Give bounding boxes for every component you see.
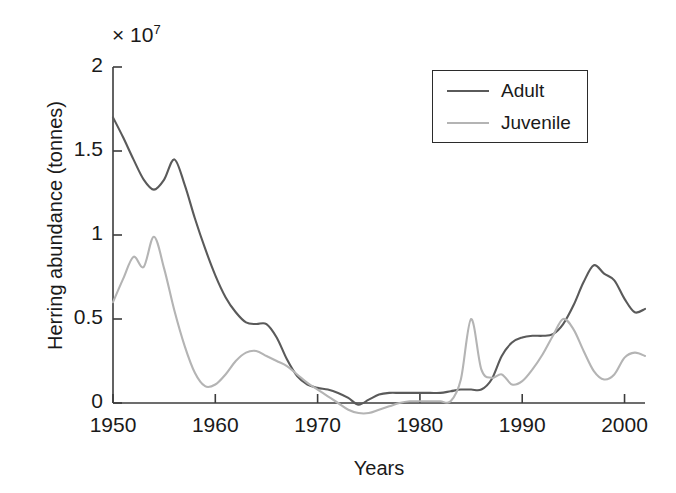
y-tick-label: 0.5	[15, 305, 103, 329]
x-tick-label: 1990	[482, 413, 562, 437]
x-tick-label: 1970	[278, 413, 358, 437]
y-axis-ticks	[113, 67, 122, 403]
legend-swatch-adult	[447, 90, 489, 92]
legend-item-juvenile: Juvenile	[433, 108, 587, 138]
x-tick-label: 1960	[175, 413, 255, 437]
x-axis-title: Years	[113, 457, 645, 480]
y-axis-multiplier-label: × 107	[112, 22, 161, 47]
series-line-adult	[113, 117, 645, 404]
chart-legend: Adult Juvenile	[432, 70, 588, 143]
multiplier-exponent: 7	[153, 22, 160, 37]
herring-abundance-figure: × 107 Herring abundance (tonnes) Years 1…	[0, 0, 676, 493]
x-tick-label: 1950	[73, 413, 153, 437]
y-tick-label: 2	[15, 53, 103, 77]
x-tick-label: 1980	[380, 413, 460, 437]
multiplier-base: × 10	[112, 23, 153, 46]
legend-swatch-juvenile	[447, 122, 489, 124]
legend-label-adult: Adult	[501, 80, 544, 102]
legend-label-juvenile: Juvenile	[501, 112, 571, 134]
legend-item-adult: Adult	[433, 76, 587, 106]
x-tick-label: 2000	[585, 413, 665, 437]
y-tick-label: 0	[15, 389, 103, 413]
y-tick-label: 1.5	[15, 137, 103, 161]
series-line-juvenile	[113, 237, 645, 414]
y-tick-label: 1	[15, 221, 103, 245]
data-series-lines	[113, 117, 645, 413]
